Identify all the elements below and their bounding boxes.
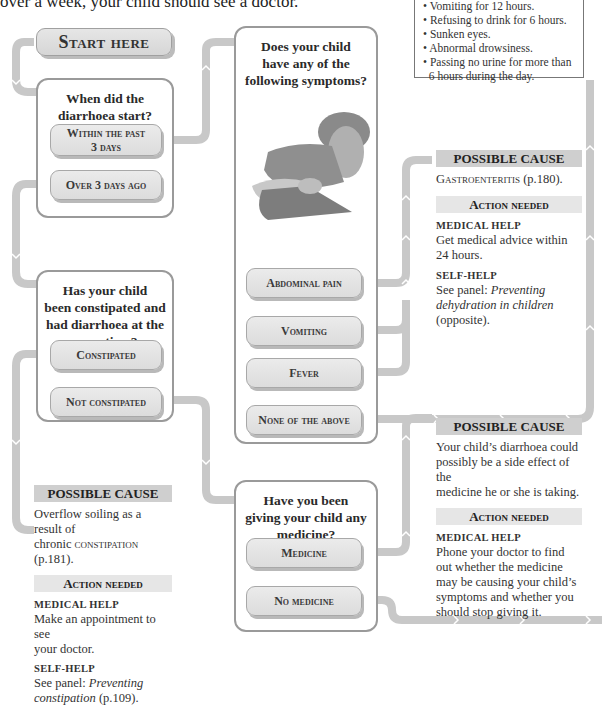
self-help-text: See panel: Preventing constipation (p.10… <box>34 676 172 706</box>
option-none-of-the-above[interactable]: None of the above <box>246 405 362 435</box>
medical-help-label: MEDICAL HELP <box>436 219 582 233</box>
child-abdominal-pain-photo <box>248 112 374 222</box>
question-title-line: had diarrhoea at the <box>38 316 172 333</box>
option-medicine[interactable]: Medicine <box>246 538 362 568</box>
self-help-text: See panel: Preventing dehydration in chi… <box>436 283 582 328</box>
cause-text: Your child’s diarrhoea could possibly be… <box>436 440 582 500</box>
possible-cause-heading: POSSIBLE CAUSE <box>34 485 172 502</box>
cause-text: Gastroenteritis (p.180). <box>436 172 582 187</box>
option-label: 3 days <box>91 140 121 154</box>
option-over-3-days[interactable]: Over 3 days ago <box>50 170 162 200</box>
question-title-line: been constipated and <box>38 299 172 316</box>
condition-link[interactable]: Gastroenteritis <box>436 172 520 186</box>
question-title-line: Has your child <box>38 282 172 299</box>
medical-help-text: Make an appointment to seeyour doctor. <box>34 612 172 657</box>
warning-item: • Passing no urine for more than <box>423 55 583 69</box>
self-help-label: SELF-HELP <box>436 269 582 283</box>
question-title-line: following symptoms? <box>236 72 376 89</box>
self-help-label: SELF-HELP <box>34 662 172 676</box>
option-fever[interactable]: Fever <box>246 358 362 388</box>
result-medicine-side-effect: POSSIBLE CAUSE Your child’s diarrhoea co… <box>436 418 582 620</box>
warning-item: 6 hours during the day. <box>423 69 583 83</box>
question-title-line: have any of the <box>236 55 376 72</box>
option-no-medicine[interactable]: No medicine <box>246 586 362 616</box>
warning-item: • Abnormal drowsiness. <box>423 41 583 55</box>
result-gastroenteritis: POSSIBLE CAUSE Gastroenteritis (p.180). … <box>436 150 582 328</box>
warning-item: • Refusing to drink for 6 hours. <box>423 13 583 27</box>
option-not-constipated[interactable]: Not constipated <box>50 387 162 417</box>
warning-symptoms-panel: • Vomiting for 12 hours. • Refusing to d… <box>414 0 584 78</box>
possible-cause-heading: POSSIBLE CAUSE <box>436 150 582 167</box>
question-title-line: Have you been <box>236 492 376 509</box>
condition-link[interactable]: constipation <box>75 537 139 551</box>
question-title-line: When did the <box>38 90 172 107</box>
action-needed-heading: Action needed <box>436 196 582 213</box>
possible-cause-heading: POSSIBLE CAUSE <box>436 418 582 435</box>
question-title-line: diarrhoea start? <box>38 107 172 124</box>
action-needed-heading: Action needed <box>436 508 582 525</box>
medical-help-label: MEDICAL HELP <box>436 531 582 545</box>
cause-text: Overflow soiling as a result of chronic … <box>34 507 172 567</box>
result-constipation: POSSIBLE CAUSE Overflow soiling as a res… <box>34 485 172 706</box>
question-title-line: giving your child any <box>236 509 376 526</box>
warning-item: • Vomiting for 12 hours. <box>423 0 583 13</box>
start-here-button[interactable]: Start here <box>36 28 172 56</box>
action-needed-heading: Action needed <box>34 575 172 592</box>
option-constipated[interactable]: Constipated <box>50 340 162 370</box>
question-title-line: Does your child <box>236 38 376 55</box>
option-label: Within the past <box>67 126 145 140</box>
medical-help-label: MEDICAL HELP <box>34 598 172 612</box>
medical-help-text: Phone your doctor to find out whether th… <box>436 545 582 620</box>
warning-item: • Sunken eyes. <box>423 27 583 41</box>
option-within-3-days[interactable]: Within the past 3 days <box>50 124 162 156</box>
option-label: Over 3 days ago <box>66 178 147 192</box>
medical-help-text: Get medical advice within24 hours. <box>436 233 582 263</box>
option-vomiting[interactable]: Vomiting <box>246 316 362 346</box>
option-abdominal-pain[interactable]: Abdominal pain <box>246 268 362 298</box>
